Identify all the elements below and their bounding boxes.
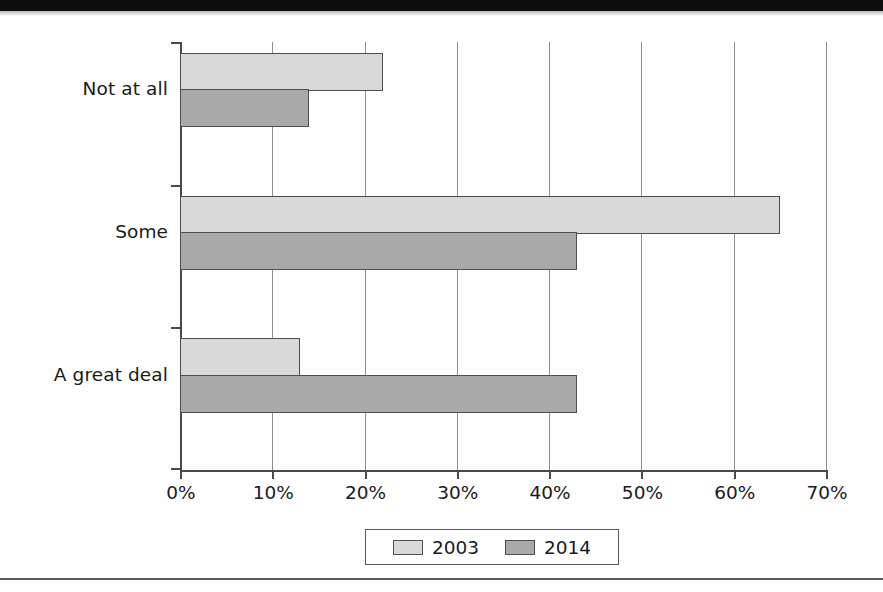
x-tick-label-20%: 20% [331,482,401,503]
y-tick-mark-1 [171,185,180,187]
category-label-a-great-deal: A great deal [0,364,168,385]
gridline-70% [826,42,827,470]
x-tick-label-0%: 0% [146,482,216,503]
x-tick-label-50%: 50% [607,482,677,503]
bar-chart: Not at allSomeA great deal 0%10%20%30%40… [0,16,883,576]
x-tick-label-70%: 70% [792,482,862,503]
x-tick-label-30%: 30% [423,482,493,503]
x-tick-mark-30% [457,470,459,479]
page-bottom-rule [0,578,883,580]
x-tick-label-60%: 60% [700,482,770,503]
x-tick-mark-50% [641,470,643,479]
legend-swatch-2014-icon [505,540,535,555]
y-axis-ticks [180,42,826,470]
x-tick-mark-20% [365,470,367,479]
y-tick-mark-2 [171,327,180,329]
category-label-not-at-all: Not at all [0,78,168,99]
legend-item-2014[interactable]: 2014 [505,537,591,558]
x-axis-line [180,470,827,472]
chart-legend: 2003 2014 [365,529,619,565]
x-tick-mark-0% [180,470,182,479]
legend-label-2003: 2003 [432,537,479,558]
legend-swatch-2003-icon [393,540,423,555]
page-root: Not at allSomeA great deal 0%10%20%30%40… [0,0,883,592]
y-tick-mark-3 [171,468,180,470]
x-tick-mark-40% [549,470,551,479]
category-labels: Not at allSomeA great deal [0,42,168,470]
x-tick-mark-60% [734,470,736,479]
category-label-some: Some [0,221,168,242]
x-tick-mark-70% [826,470,828,479]
x-tick-label-40%: 40% [515,482,585,503]
scan-artifact-top-band [0,0,883,11]
y-tick-mark-0 [171,42,180,44]
x-tick-label-10%: 10% [238,482,308,503]
x-tick-mark-10% [272,470,274,479]
legend-item-2003[interactable]: 2003 [393,537,479,558]
legend-label-2014: 2014 [544,537,591,558]
